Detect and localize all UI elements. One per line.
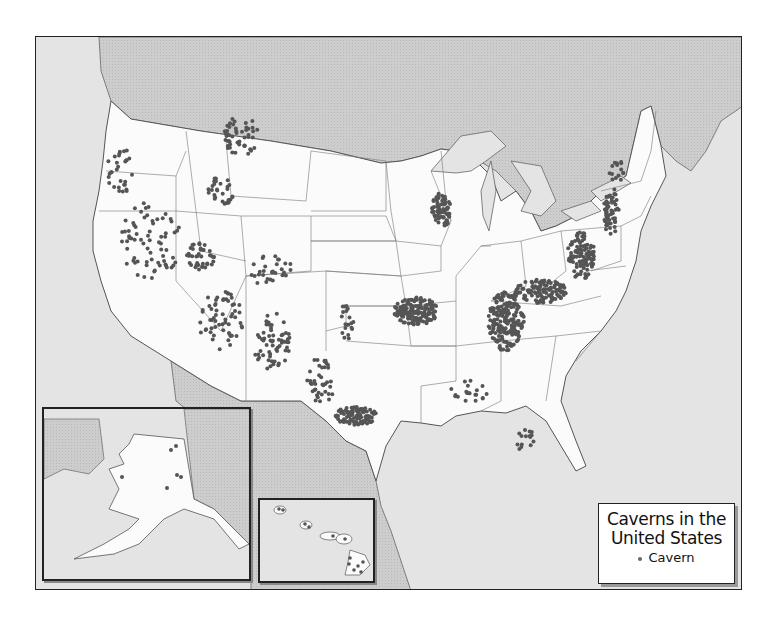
hawaii-inset [258, 498, 375, 583]
alaska-inset [42, 407, 251, 581]
map-title-line1: Caverns in the [599, 510, 734, 529]
map-frame: Caverns in the United States Cavern [35, 36, 742, 590]
legend-label: Cavern [648, 550, 694, 565]
legend-entry-cavern: Cavern [599, 550, 734, 565]
map-title: Caverns in the United States [599, 510, 734, 548]
alaska-map [44, 409, 251, 581]
hawaii-map [260, 500, 375, 583]
map-legend: Caverns in the United States Cavern [598, 503, 735, 584]
map-title-line2: United States [599, 529, 734, 548]
cavern-dot-icon [638, 557, 642, 561]
